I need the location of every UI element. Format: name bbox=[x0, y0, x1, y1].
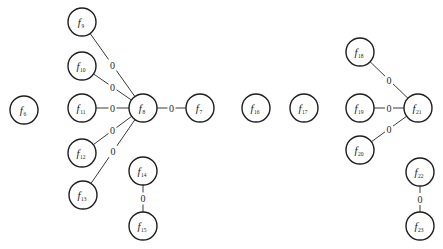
node-f20: f20 bbox=[346, 136, 374, 164]
node-label-subscript: 7 bbox=[199, 109, 202, 115]
node-label-subscript: 8 bbox=[142, 109, 145, 115]
node-label-subscript: 14 bbox=[141, 172, 147, 178]
node-label-subscript: 20 bbox=[358, 151, 364, 157]
nodes-layer: f6f7f8f9f10f11f12f13f14f15f16f17f18f19f2… bbox=[10, 8, 434, 240]
edge-weight-label: 0 bbox=[141, 193, 146, 204]
edge-f12-f8: 0 bbox=[93, 116, 131, 144]
edge-f14-f15: 0 bbox=[139, 185, 147, 212]
node-label-subscript: 19 bbox=[358, 109, 364, 115]
node-f12: f12 bbox=[68, 139, 96, 167]
edge-weight-label: 0 bbox=[111, 146, 116, 157]
node-f23: f23 bbox=[406, 212, 434, 240]
node-label-subscript: 12 bbox=[80, 154, 86, 160]
edge-weight-label: 0 bbox=[418, 194, 423, 205]
node-f22: f22 bbox=[406, 158, 434, 186]
node-f19: f19 bbox=[346, 94, 374, 122]
node-label-subscript: 22 bbox=[418, 173, 424, 179]
node-f21: f21 bbox=[404, 94, 432, 122]
edge-f18-f21: 0 bbox=[370, 62, 408, 99]
edge-f11-f8: 0 bbox=[96, 102, 129, 114]
node-label-subscript: 16 bbox=[254, 109, 260, 115]
edge-weight-label: 0 bbox=[110, 60, 115, 71]
edge-weight-label: 0 bbox=[387, 75, 392, 86]
edge-weight-label: 0 bbox=[387, 103, 392, 114]
edge-weight-label: 0 bbox=[110, 125, 115, 136]
node-label-subscript: 21 bbox=[416, 109, 422, 115]
node-f17: f17 bbox=[290, 94, 318, 122]
edge-f19-f21: 0 bbox=[374, 102, 404, 114]
edge-weight-label: 0 bbox=[169, 103, 174, 114]
node-f18: f18 bbox=[346, 38, 374, 66]
node-f10: f10 bbox=[68, 52, 96, 80]
edge-f10-f8: 0 bbox=[94, 74, 132, 100]
node-f11: f11 bbox=[68, 94, 96, 122]
node-label-subscript: 23 bbox=[418, 227, 424, 233]
node-f14: f14 bbox=[129, 157, 157, 185]
node-label-subscript: 6 bbox=[23, 111, 26, 117]
node-label-subscript: 15 bbox=[141, 227, 147, 233]
node-f16: f16 bbox=[242, 94, 270, 122]
edge-f20-f21: 0 bbox=[371, 116, 406, 142]
node-f8: f8 bbox=[129, 94, 157, 122]
node-f7: f7 bbox=[186, 94, 214, 122]
node-label-subscript: 13 bbox=[81, 196, 87, 202]
edge-weight-label: 0 bbox=[110, 103, 115, 114]
node-f15: f15 bbox=[129, 212, 157, 240]
node-f13: f13 bbox=[69, 181, 97, 209]
node-f9: f9 bbox=[68, 8, 96, 36]
graph-diagram: 00000000000 f6f7f8f9f10f11f12f13f14f15f1… bbox=[0, 0, 443, 249]
edge-weight-label: 0 bbox=[387, 124, 392, 135]
node-label-subscript: 10 bbox=[80, 67, 86, 73]
edge-weight-label: 0 bbox=[110, 82, 115, 93]
edge-f22-f23: 0 bbox=[416, 186, 424, 212]
node-label-subscript: 17 bbox=[302, 109, 308, 115]
node-label-subscript: 11 bbox=[80, 109, 86, 115]
node-f6: f6 bbox=[10, 96, 38, 124]
edge-f8-f7: 0 bbox=[157, 102, 186, 114]
node-label-subscript: 9 bbox=[81, 23, 84, 29]
node-label-subscript: 18 bbox=[358, 53, 364, 59]
